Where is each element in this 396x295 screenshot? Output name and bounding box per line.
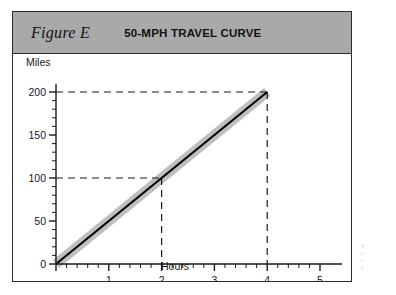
margin-text-line: T	[361, 243, 394, 250]
margin-text-line: c	[361, 250, 394, 257]
svg-text:100: 100	[28, 172, 46, 184]
svg-text:150: 150	[28, 129, 46, 141]
figure-container: Figure E 50-MPH TRAVEL CURVE Miles Hours…	[12, 11, 352, 282]
page-margin-text: Tctt	[361, 243, 394, 271]
plot-area: Miles Hours 050100150200 12345	[13, 54, 351, 281]
figure-title: 50-MPH TRAVEL CURVE	[124, 27, 261, 39]
figure-title-band: Figure E 50-MPH TRAVEL CURVE	[13, 12, 351, 54]
svg-text:0: 0	[40, 258, 46, 270]
figure-label: Figure E	[31, 24, 90, 42]
svg-text:50: 50	[34, 215, 46, 227]
y-axis-tick-labels: 050100150200	[28, 86, 46, 270]
svg-text:2: 2	[159, 274, 165, 281]
x-axis-tick-labels: 12345	[106, 274, 323, 281]
svg-text:4: 4	[264, 274, 270, 281]
svg-text:5: 5	[317, 274, 323, 281]
axis-ticks	[49, 92, 320, 271]
margin-text-line: t	[361, 264, 394, 271]
travel-curve-chart: 050100150200 12345	[13, 54, 350, 281]
margin-text-line: t	[361, 257, 394, 264]
svg-text:200: 200	[28, 86, 46, 98]
svg-text:3: 3	[211, 274, 217, 281]
svg-text:1: 1	[106, 274, 112, 281]
axis-lines	[56, 84, 342, 264]
